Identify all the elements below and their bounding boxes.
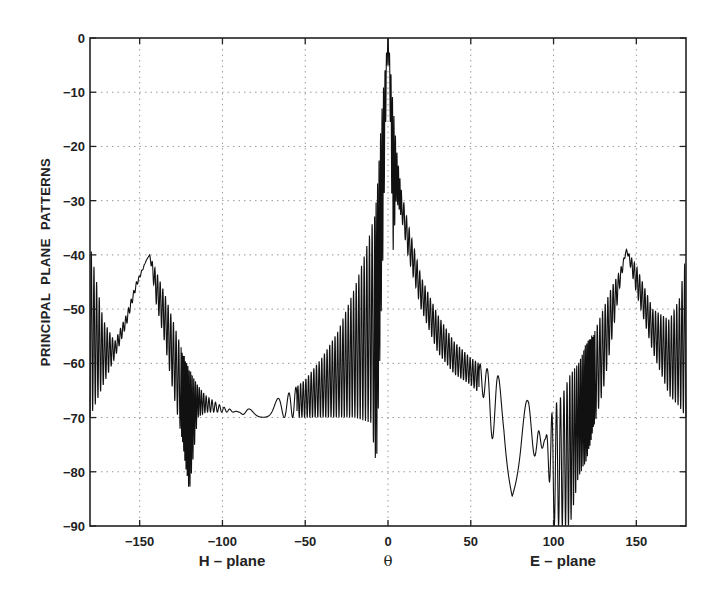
y-tick-label: −30 [63, 194, 85, 209]
x-tick-label: 100 [543, 534, 565, 549]
y-tick-label: −50 [63, 302, 85, 317]
y-tick-label: −90 [63, 519, 85, 534]
x-tick-label: 50 [464, 534, 478, 549]
x-tick-label: −100 [208, 534, 237, 549]
y-tick-label: −40 [63, 248, 85, 263]
pattern-curve [90, 38, 686, 526]
y-tick-label: −20 [63, 139, 85, 154]
x-axis-label-theta: θ [383, 552, 392, 570]
radiation-pattern-chart: −150−100−50050100150 0−10−20−30−40−50−60… [0, 0, 722, 599]
y-axis-label: PRINCIPAL PLANE PATTERNS [38, 158, 53, 367]
x-tick-label: 0 [384, 534, 391, 549]
x-tick-label: −150 [125, 534, 154, 549]
axis-ticks [90, 38, 686, 526]
x-axis-label-h-plane: H – plane [199, 552, 266, 569]
y-tick-label: 0 [78, 31, 85, 46]
x-tick-label: −50 [294, 534, 316, 549]
y-tick-labels: 0−10−20−30−40−50−60−70−80−90 [63, 31, 85, 534]
y-tick-label: −60 [63, 356, 85, 371]
grid-lines [90, 38, 686, 526]
y-tick-label: −80 [63, 465, 85, 480]
y-tick-label: −10 [63, 85, 85, 100]
x-axis-label-e-plane: E – plane [530, 552, 596, 569]
plot-frame [90, 38, 686, 526]
x-tick-labels: −150−100−50050100150 [125, 534, 647, 549]
pattern-series [90, 38, 388, 487]
pattern-series [388, 38, 686, 526]
x-tick-label: 150 [625, 534, 647, 549]
y-tick-label: −70 [63, 411, 85, 426]
